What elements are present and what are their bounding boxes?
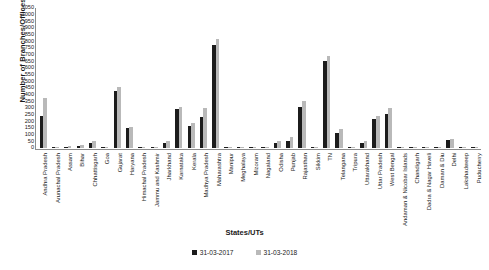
bar-group[interactable]: [419, 8, 431, 148]
bar[interactable]: [228, 147, 232, 148]
x-tick-label: Telangana: [340, 153, 346, 180]
legend-item-1: 31-03-2018: [256, 249, 298, 256]
bar[interactable]: [425, 147, 429, 148]
bar[interactable]: [92, 141, 96, 148]
bar-group[interactable]: [395, 8, 407, 148]
bar[interactable]: [462, 147, 466, 148]
x-tick-label: Manipur: [228, 153, 234, 174]
bar-group[interactable]: [444, 8, 456, 148]
bar-group[interactable]: [468, 8, 480, 148]
bar[interactable]: [253, 147, 257, 148]
bar[interactable]: [117, 87, 121, 148]
bar[interactable]: [413, 147, 417, 148]
bar[interactable]: [277, 141, 281, 148]
bar[interactable]: [438, 147, 442, 148]
bar-group[interactable]: [136, 8, 148, 148]
bar[interactable]: [475, 147, 479, 148]
x-tick-label: Kerala: [191, 153, 197, 170]
bar-group[interactable]: [210, 8, 222, 148]
bar-group[interactable]: [432, 8, 444, 148]
bar[interactable]: [166, 141, 170, 148]
bar[interactable]: [265, 147, 269, 148]
bar[interactable]: [327, 56, 331, 148]
x-tick-cell: Nagaland: [259, 151, 271, 226]
bar-group[interactable]: [407, 8, 419, 148]
bar[interactable]: [314, 147, 318, 148]
bar[interactable]: [240, 147, 244, 148]
bar[interactable]: [129, 127, 133, 148]
y-tick-label: 150: [25, 125, 34, 131]
bar[interactable]: [401, 147, 405, 148]
y-tick-label: 550: [25, 72, 34, 78]
bar-group[interactable]: [173, 8, 185, 148]
x-tick-label: Jharkhand: [166, 153, 172, 181]
bar[interactable]: [43, 98, 47, 148]
x-tick-cell: West Bengal: [383, 151, 395, 226]
bar[interactable]: [302, 101, 306, 148]
bar-group[interactable]: [197, 8, 209, 148]
bar-group[interactable]: [358, 8, 370, 148]
bar-group[interactable]: [284, 8, 296, 148]
x-tick-cell: Chandigarh: [408, 151, 420, 226]
x-tick-label: Haryana: [129, 153, 135, 175]
x-tick-cell: Punjab: [284, 151, 296, 226]
bar-group[interactable]: [62, 8, 74, 148]
bar-group[interactable]: [111, 8, 123, 148]
bar[interactable]: [80, 145, 84, 148]
bar-group[interactable]: [247, 8, 259, 148]
bar-group[interactable]: [259, 8, 271, 148]
bar-group[interactable]: [148, 8, 160, 148]
x-tick-cell: Jammu and Kashmir: [148, 151, 160, 226]
y-tick-label: 250: [25, 112, 34, 118]
bar-group[interactable]: [345, 8, 357, 148]
x-tick-label: Gujarat: [117, 153, 123, 172]
bar[interactable]: [55, 147, 59, 148]
bar[interactable]: [351, 147, 355, 148]
bar-group[interactable]: [99, 8, 111, 148]
bar-group[interactable]: [271, 8, 283, 148]
bar[interactable]: [105, 147, 109, 148]
bar[interactable]: [364, 141, 368, 148]
bar-group[interactable]: [456, 8, 468, 148]
bar-group[interactable]: [74, 8, 86, 148]
legend-label-1: 31-03-2018: [264, 249, 298, 256]
bar-group[interactable]: [49, 8, 61, 148]
bar[interactable]: [339, 129, 343, 148]
x-tick-cell: TN: [321, 151, 333, 226]
x-tick-cell: Sikkim: [309, 151, 321, 226]
x-tick-label: Rajasthan: [302, 153, 308, 180]
bar[interactable]: [68, 146, 72, 148]
x-tick-cell: Andaman & Nicobar Islands: [395, 151, 407, 226]
bar-group[interactable]: [86, 8, 98, 148]
bar[interactable]: [191, 123, 195, 148]
bar-group[interactable]: [296, 8, 308, 148]
bar-group[interactable]: [382, 8, 394, 148]
bar[interactable]: [290, 137, 294, 148]
bar[interactable]: [450, 139, 454, 148]
x-tick-cell: Madhya Pradesh: [197, 151, 209, 226]
bar-group[interactable]: [37, 8, 49, 148]
x-tick-cell: Bihar: [73, 151, 85, 226]
bar[interactable]: [179, 107, 183, 148]
bar-group[interactable]: [333, 8, 345, 148]
x-tick-cell: Daman & Diu: [433, 151, 445, 226]
x-tick-cell: Uttar Pradesh: [371, 151, 383, 226]
x-tick-label: Tripura: [352, 153, 358, 171]
bar[interactable]: [216, 39, 220, 148]
bar[interactable]: [142, 147, 146, 148]
x-tick-cell: Jharkhand: [160, 151, 172, 226]
bar[interactable]: [154, 147, 158, 148]
x-tick-cell: Dadra & Nagar Haveli: [420, 151, 432, 226]
bar[interactable]: [388, 108, 392, 148]
bar-group[interactable]: [160, 8, 172, 148]
bar-group[interactable]: [222, 8, 234, 148]
bar[interactable]: [376, 116, 380, 148]
bar-group[interactable]: [185, 8, 197, 148]
bar-group[interactable]: [234, 8, 246, 148]
bar-group[interactable]: [123, 8, 135, 148]
bar-group[interactable]: [370, 8, 382, 148]
bar-group[interactable]: [321, 8, 333, 148]
bar[interactable]: [203, 108, 207, 148]
bar-group[interactable]: [308, 8, 320, 148]
x-tick-cell: Arunachal Pradesh: [48, 151, 60, 226]
